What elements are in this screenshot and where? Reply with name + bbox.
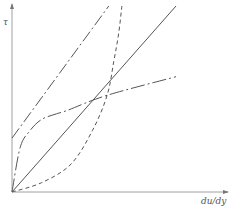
newtonian-line <box>12 6 176 192</box>
y-axis-label: τ <box>3 17 9 27</box>
rheology-chart: τ du/dy <box>0 0 235 206</box>
x-axis-label: du/dy <box>201 196 227 206</box>
dilatant-curve <box>12 6 122 192</box>
bingham-plastic-line <box>12 6 109 138</box>
pseudoplastic-curve <box>12 77 176 192</box>
